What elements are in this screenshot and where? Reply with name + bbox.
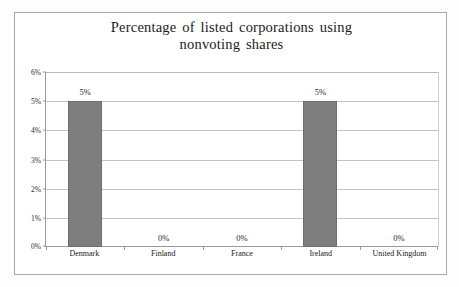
x-axis-label-finland: Finland — [124, 249, 203, 258]
ytick-label-1: 1% — [31, 213, 41, 222]
bar-value-label-france: 0% — [236, 233, 247, 243]
bar-denmark[interactable] — [68, 101, 102, 247]
chart-title: Percentage of listed corporations using … — [55, 19, 408, 53]
x-axis-label-ireland: Ireland — [281, 249, 360, 258]
ytick-label-3: 3% — [31, 155, 41, 164]
ytick-label-2: 2% — [31, 184, 41, 193]
bar-value-label-ireland: 5% — [315, 87, 326, 97]
ytick-label-6: 6% — [31, 68, 41, 77]
chart-title-line-1: Percentage of listed corporations using — [55, 19, 408, 36]
bar-column-united-kingdom[interactable]: 0% — [360, 72, 438, 247]
bar-value-label-united-kingdom: 0% — [393, 233, 404, 243]
bar-value-label-denmark: 5% — [80, 87, 91, 97]
x-axis-label-denmark: Denmark — [45, 249, 124, 258]
bar-column-ireland[interactable]: 5% — [281, 72, 359, 247]
bar-column-finland[interactable]: 0% — [124, 72, 202, 247]
bar-column-denmark[interactable]: 5% — [46, 72, 124, 247]
page-background: Percentage of listed corporations using … — [0, 0, 459, 287]
bar-value-label-finland: 0% — [158, 233, 169, 243]
ytick-label-5: 5% — [31, 97, 41, 106]
bar-column-france[interactable]: 0% — [203, 72, 281, 247]
x-axis-labels: Denmark Finland France Ireland United Ki… — [45, 249, 439, 258]
x-axis-label-france: France — [203, 249, 282, 258]
x-axis-label-united-kingdom: United Kingdom — [360, 249, 439, 258]
ytick-label-0: 0% — [31, 242, 41, 251]
bar-ireland[interactable] — [303, 101, 337, 247]
chart-frame: Percentage of listed corporations using … — [14, 12, 447, 275]
plot-area: 6% 5% 4% 3% 2% 1% — [45, 72, 439, 247]
ytick-label-4: 4% — [31, 126, 41, 135]
bars-layer: 5% 0% 0% 5% — [46, 72, 438, 247]
chart-title-line-2: nonvoting shares — [55, 36, 408, 53]
